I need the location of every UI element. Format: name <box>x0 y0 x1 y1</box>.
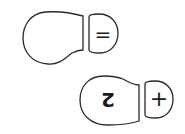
equals-sign: = <box>95 22 112 46</box>
footprint-top: = <box>23 12 118 64</box>
rotated-two-label: 2 <box>101 88 115 112</box>
footprints-diagram: = 2 + <box>0 0 185 134</box>
footprint-bottom: 2 + <box>80 76 173 125</box>
plus-sign: + <box>150 86 168 111</box>
footprint-top-sole <box>23 12 83 64</box>
